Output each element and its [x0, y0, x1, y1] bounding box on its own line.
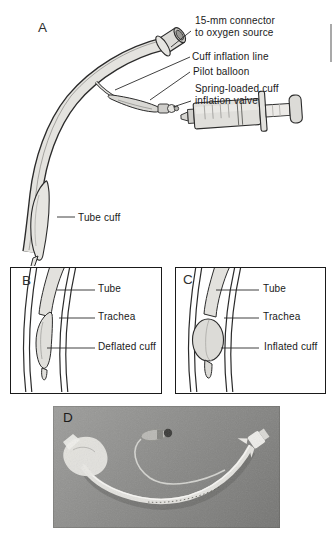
label-pilot-balloon: Pilot balloon: [193, 66, 249, 78]
page-edge-bar: [330, 24, 332, 62]
photo-endotracheal-tube: [53, 406, 280, 528]
label-connector: 15-mm connector to oxygen source: [195, 15, 305, 39]
photo-grain-overlay: [53, 406, 280, 528]
panel-c-letter: C: [183, 272, 193, 287]
panel-c-inflated-cuff-illustration: [176, 268, 324, 392]
panel-b-deflated-cuff-illustration: [11, 268, 160, 392]
label-cuff-inflation-line: Cuff inflation line: [192, 51, 269, 63]
label-b-deflated-cuff: Deflated cuff: [98, 341, 156, 353]
label-c-tube: Tube: [263, 283, 286, 295]
panel-d-photograph: D: [53, 406, 280, 528]
label-c-inflated-cuff: Inflated cuff: [264, 341, 317, 353]
label-tube-cuff: Tube cuff: [78, 212, 121, 224]
label-b-trachea: Trachea: [98, 311, 135, 323]
panel-b-letter: B: [22, 273, 31, 288]
label-c-trachea: Trachea: [263, 311, 300, 323]
inflation-valve-drawing: [158, 104, 179, 113]
panel-d-letter: D: [63, 410, 73, 425]
label-inflation-valve: Spring-loaded cuff inflation valve: [195, 83, 305, 107]
panel-a-endotracheal-tube-illustration: [0, 0, 333, 266]
label-b-tube: Tube: [98, 283, 121, 295]
connector-15mm-drawing: [153, 23, 189, 58]
pilot-balloon-drawing: [108, 95, 160, 112]
figure-endotracheal-tube: A: [0, 0, 333, 535]
panel-b-box: [10, 267, 162, 394]
panel-c-box: [175, 267, 326, 394]
